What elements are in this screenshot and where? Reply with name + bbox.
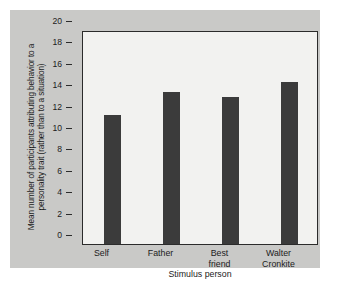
y-axis-tick-label: 2	[24, 209, 62, 219]
y-axis-tick-label: 12	[24, 102, 62, 112]
y-axis-tick	[66, 235, 72, 236]
y-axis-tick-label: 0	[24, 230, 62, 240]
y-axis-tick-label: 20	[24, 16, 62, 26]
y-axis-tick-label: 18	[24, 37, 62, 47]
x-axis-tick-label: WalterCronkite	[244, 248, 314, 269]
y-axis-tick-label: 16	[24, 59, 62, 69]
y-axis-tick	[66, 214, 72, 215]
x-axis-tick-label-line: Walter	[244, 248, 314, 259]
y-axis-tick	[66, 21, 72, 22]
y-axis-tick-label: 10	[24, 123, 62, 133]
y-axis-tick-label: 4	[24, 187, 62, 197]
bar	[163, 92, 180, 244]
y-axis-tick	[66, 64, 72, 65]
y-axis-tick	[66, 107, 72, 108]
y-axis-tick	[66, 171, 72, 172]
chart-panel: Mean number of participants attributing …	[10, 10, 320, 268]
y-axis-tick-label: 8	[24, 144, 62, 154]
bar	[222, 97, 239, 244]
y-axis-tick	[66, 128, 72, 129]
figure: Mean number of participants attributing …	[0, 0, 340, 288]
bar	[281, 82, 298, 244]
y-axis-tick	[66, 42, 72, 43]
bar	[104, 115, 121, 244]
x-axis-tick-label-line: Cronkite	[244, 259, 314, 270]
y-axis-tick	[66, 85, 72, 86]
bar-series	[83, 32, 317, 244]
y-axis-tick-label: 6	[24, 166, 62, 176]
y-axis-tick	[66, 192, 72, 193]
plot-area	[82, 31, 318, 245]
y-axis-tick	[66, 149, 72, 150]
y-axis-tick-label: 14	[24, 80, 62, 90]
x-axis-title: Stimulus person	[82, 269, 318, 279]
